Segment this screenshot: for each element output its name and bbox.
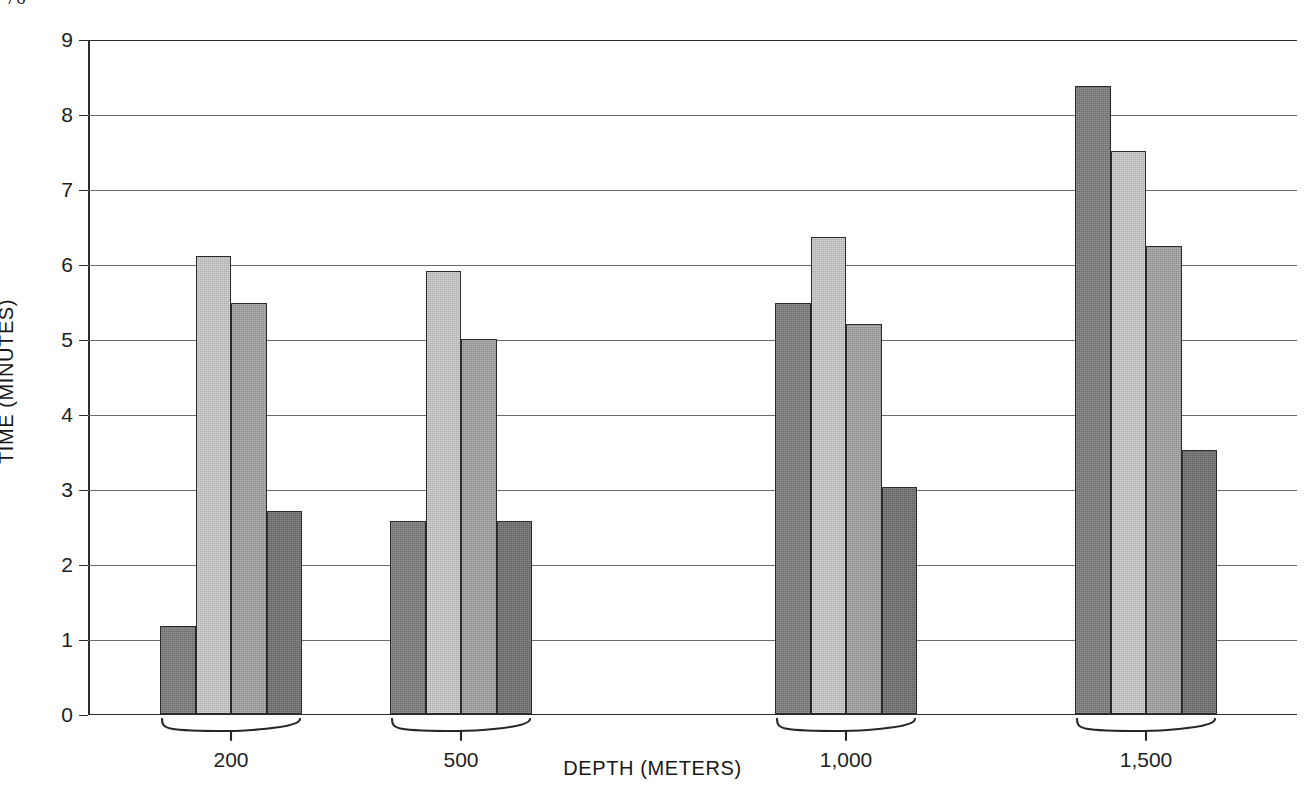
group-brace [1075,718,1217,744]
y-axis-line [88,40,90,715]
bar [1182,450,1218,713]
y-axis-tick [79,490,88,491]
y-axis-tick-label: 7 [33,179,73,200]
x-axis-title: DEPTH (METERS) [0,757,1305,780]
bar [461,339,497,714]
y-axis-tick-label: 2 [33,554,73,575]
bar [231,303,267,713]
y-axis-tick-label: 4 [33,404,73,425]
bar [811,237,847,713]
bar [160,626,196,714]
bar [497,521,533,714]
x-axis-line [88,714,1297,716]
y-axis-tick-label: 8 [33,104,73,125]
bar [267,511,303,714]
bar [846,324,882,714]
y-axis-tick [79,340,88,341]
y-axis-tick-label: 3 [33,479,73,500]
y-axis-tick [79,715,88,716]
group-brace [390,718,532,744]
bar-chart-figure: 0123456789 2005001,0001,500 DEPTH (METER… [0,0,1305,795]
bar [196,256,232,714]
y-axis-title: TIME (MINUTES) [0,102,18,662]
gridline [88,40,1297,41]
bar [775,303,811,713]
group-brace [775,718,917,744]
gridline [88,115,1297,116]
group-brace [160,718,302,744]
bar [1111,151,1147,714]
bar [426,271,462,714]
y-axis-tick-label: 6 [33,254,73,275]
bar [1146,246,1182,713]
y-axis-tick [79,415,88,416]
y-axis-tick [79,40,88,41]
y-axis-tick [79,265,88,266]
bar [390,521,426,714]
y-axis-tick-label: 0 [33,704,73,725]
bar [1075,86,1111,714]
y-axis-tick [79,640,88,641]
y-axis-tick [79,190,88,191]
y-axis-tick [79,565,88,566]
y-axis-tick-label: 5 [33,329,73,350]
y-axis-tick-label: 9 [33,29,73,50]
bar [882,487,918,714]
plot-area: 0123456789 [88,40,1297,715]
y-axis-tick-label: 1 [33,629,73,650]
y-axis-tick [79,115,88,116]
